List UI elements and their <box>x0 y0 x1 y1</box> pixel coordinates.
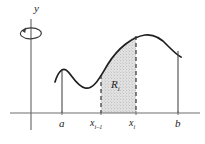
region-shading <box>101 36 136 113</box>
region-label-sub: i <box>118 85 120 92</box>
tick-label-x-i-minus-1: xi–1 <box>90 118 102 130</box>
solid-of-revolution-figure: y a xi–1 xi b Ri <box>0 0 205 144</box>
y-axis-label: y <box>34 3 39 14</box>
region-label-base: R <box>111 78 118 90</box>
tick-label-x-i-minus-1-sub: i–1 <box>94 123 102 130</box>
tick-label-b: b <box>175 118 181 129</box>
region-label: Ri <box>111 79 120 93</box>
tick-label-x-i: xi <box>129 118 135 130</box>
tick-label-a: a <box>59 118 65 129</box>
tick-label-x-i-sub: i <box>133 123 135 130</box>
